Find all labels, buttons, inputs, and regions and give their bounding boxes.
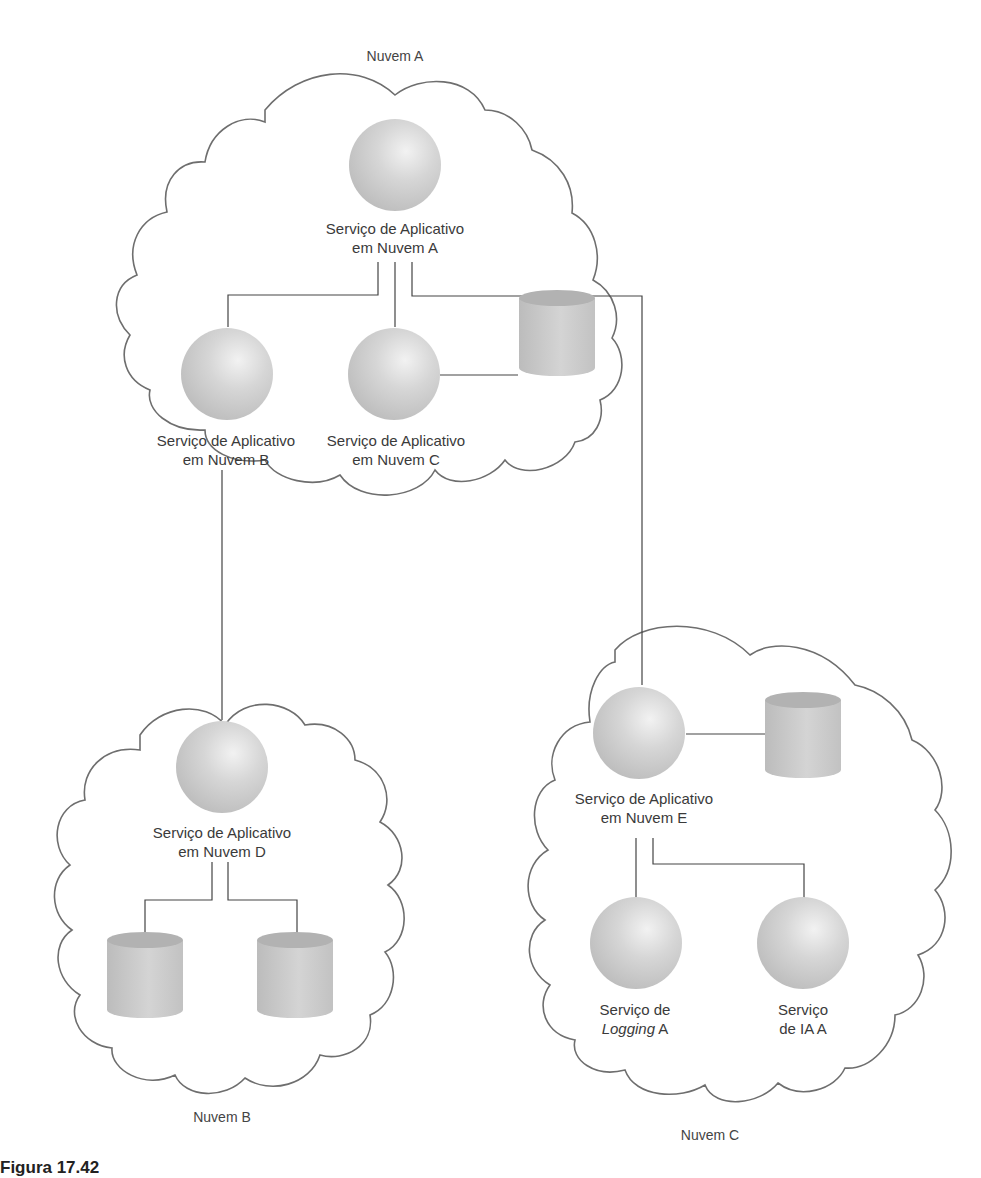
cloud-a-title: Nuvem A [367, 48, 424, 64]
database-cloud-a-icon[interactable] [519, 290, 595, 376]
logging-service-icon[interactable] [590, 897, 682, 989]
app-service-a-label: Serviço de Aplicativo em Nuvem A [326, 219, 464, 257]
app-service-c-icon[interactable] [348, 328, 440, 420]
app-service-d-label: Serviço de Aplicativo em Nuvem D [153, 823, 291, 861]
app-service-e-icon[interactable] [593, 687, 685, 779]
cloud-b-title: Nuvem B [193, 1109, 251, 1125]
app-service-a-icon[interactable] [349, 119, 441, 211]
figure-caption: Figura 17.42 [0, 1158, 99, 1178]
logging-service-label: Serviço de Logging A [600, 1000, 671, 1038]
app-service-c-label: Serviço de Aplicativo em Nuvem C [327, 431, 465, 469]
database-cloud-b-right-icon[interactable] [257, 932, 333, 1018]
cloud-c-title: Nuvem C [681, 1127, 739, 1143]
database-cloud-c-icon[interactable] [765, 692, 841, 778]
database-cloud-b-left-icon[interactable] [107, 932, 183, 1018]
app-service-d-icon[interactable] [176, 721, 268, 813]
app-service-b-label: Serviço de Aplicativo em Nuvem B [157, 431, 295, 469]
app-service-b-icon[interactable] [181, 328, 273, 420]
app-service-e-label: Serviço de Aplicativo em Nuvem E [575, 789, 713, 827]
ai-service-icon[interactable] [757, 897, 849, 989]
ai-service-label: Serviço de IA A [778, 1000, 828, 1038]
